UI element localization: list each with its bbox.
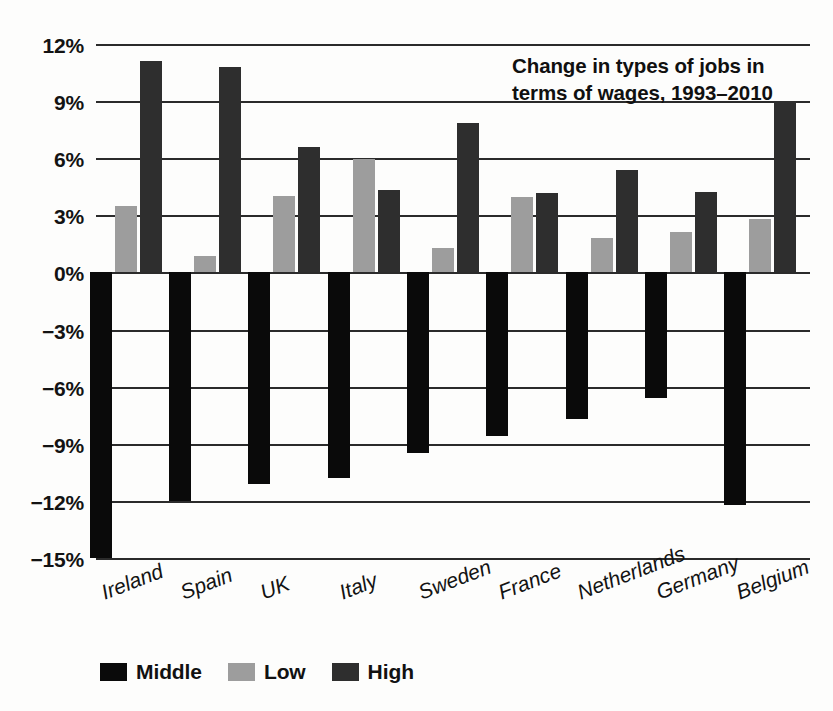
legend-swatch-icon (228, 663, 255, 681)
y-axis-tick-label: −3% (42, 320, 84, 344)
y-axis-tick-label: 6% (54, 148, 84, 172)
bar-low-ireland (115, 206, 137, 273)
bar-high-germany (695, 192, 717, 272)
bar-group (572, 44, 651, 558)
y-axis-tick-label: −6% (42, 377, 84, 401)
bar-low-netherlands (591, 238, 613, 272)
bar-middle-ireland (90, 272, 112, 558)
bar-middle-belgium (724, 272, 746, 504)
bar-group (255, 44, 334, 558)
category-label-ireland: Ireland (98, 559, 167, 604)
y-axis-tick-label: −12% (31, 491, 85, 515)
bar-middle-france (486, 272, 508, 436)
bar-group (413, 44, 492, 558)
y-axis-tick-label: 3% (54, 205, 84, 229)
chart-title-line-1: Change in types of jobs in (512, 52, 812, 79)
bar-group (175, 44, 254, 558)
category-label-uk: UK (257, 572, 293, 605)
category-label-sweden: Sweden (415, 555, 494, 605)
bar-group (96, 44, 175, 558)
bar-low-belgium (749, 219, 771, 272)
bar-middle-italy (328, 272, 350, 478)
bar-middle-germany (645, 272, 667, 398)
bar-high-uk (298, 147, 320, 273)
bar-low-italy (353, 159, 375, 272)
bar-high-netherlands (616, 170, 638, 273)
bar-high-spain (219, 67, 241, 273)
legend-item-middle[interactable]: Middle (100, 660, 202, 684)
bar-middle-spain (169, 272, 191, 500)
category-label-spain: Spain (177, 563, 236, 605)
legend-label: Low (264, 660, 306, 684)
category-axis-labels: IrelandSpainUKItalySwedenFranceNetherlan… (96, 558, 810, 648)
legend-label: Middle (136, 660, 202, 684)
y-axis-tick-label: −9% (42, 434, 84, 458)
bar-middle-sweden (407, 272, 429, 453)
bar-low-uk (273, 196, 295, 272)
category-label-italy: Italy (336, 568, 381, 604)
bar-low-france (511, 197, 533, 272)
bar-middle-uk (248, 272, 270, 483)
bar-high-italy (378, 190, 400, 273)
bar-group (493, 44, 572, 558)
y-axis-tick-label: 0% (54, 262, 84, 286)
legend-swatch-icon (332, 663, 359, 681)
y-axis-tick-label: 12% (43, 34, 84, 58)
bar-group (731, 44, 810, 558)
bar-middle-netherlands (566, 272, 588, 419)
bar-low-sweden (432, 248, 454, 273)
bar-group (651, 44, 730, 558)
category-label-france: France (495, 559, 565, 605)
bar-low-germany (670, 232, 692, 272)
chart-title: Change in types of jobs in terms of wage… (512, 52, 812, 106)
chart-title-line-2: terms of wages, 1993–2010 (512, 79, 812, 106)
bar-group (334, 44, 413, 558)
legend-swatch-icon (100, 663, 127, 681)
plot-area: 12%9%6%3%0%−3%−6%−9%−12%−15% (96, 44, 810, 558)
bar-high-ireland (140, 61, 162, 272)
legend-label: High (368, 660, 414, 684)
y-axis-tick-label: −15% (31, 548, 85, 572)
bar-low-spain (194, 256, 216, 272)
bar-high-sweden (457, 123, 479, 272)
legend-item-high[interactable]: High (332, 660, 414, 684)
bar-high-france (536, 193, 558, 272)
chart-figure: 12%9%6%3%0%−3%−6%−9%−12%−15% Change in t… (0, 0, 833, 711)
y-axis-tick-label: 9% (54, 91, 84, 115)
legend-item-low[interactable]: Low (228, 660, 306, 684)
category-label-belgium: Belgium (733, 555, 812, 605)
bar-high-belgium (774, 101, 796, 272)
chart-legend: MiddleLowHigh (100, 660, 414, 684)
